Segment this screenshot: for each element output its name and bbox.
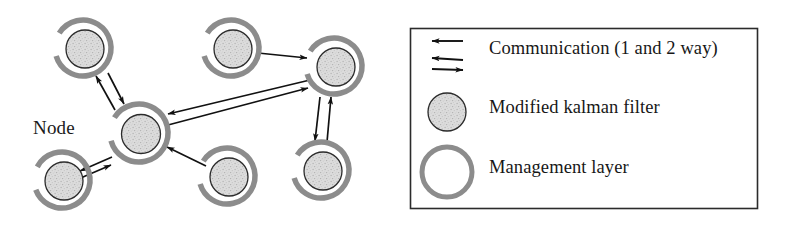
legend-symbol-filled-circle-icon bbox=[428, 93, 466, 131]
node-bottom-left[interactable] bbox=[24, 142, 100, 218]
kalman-filter-circle bbox=[304, 152, 342, 190]
kalman-filter-circle bbox=[214, 30, 252, 68]
kalman-filter-circle bbox=[210, 158, 248, 196]
kalman-filter-circle bbox=[45, 162, 83, 200]
link-top-right-bottom-right bbox=[315, 97, 331, 142]
legend-item-label-modified-kalman-filter: Modified kalman filter bbox=[489, 97, 660, 118]
link-center-top-right bbox=[168, 80, 310, 125]
kalman-filter-circle bbox=[66, 30, 104, 68]
link-bottom-middle-center bbox=[167, 147, 206, 166]
network-diagram-figure: Node Communication (1 and 2 way) Modifie… bbox=[0, 0, 788, 225]
node-top-right[interactable] bbox=[295, 27, 372, 104]
node-top-left[interactable] bbox=[44, 9, 121, 86]
kalman-filter-circle bbox=[122, 115, 161, 154]
legend-item-label-communication: Communication (1 and 2 way) bbox=[489, 38, 718, 59]
node-top-middle[interactable] bbox=[192, 9, 269, 86]
node-bottom-middle[interactable] bbox=[188, 137, 265, 214]
node-text-label: Node bbox=[33, 117, 75, 139]
link-center-top-left bbox=[96, 73, 124, 110]
kalman-filter-circle bbox=[317, 48, 355, 86]
diagram-canvas bbox=[0, 0, 788, 225]
link-top-middle-top-right bbox=[258, 53, 307, 58]
legend-item-label-management-layer: Management layer bbox=[489, 157, 629, 178]
node-center-hub[interactable] bbox=[99, 93, 179, 173]
node-bottom-right[interactable] bbox=[282, 131, 359, 208]
